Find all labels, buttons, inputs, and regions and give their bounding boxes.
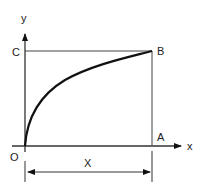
label-o: O (10, 151, 19, 163)
dimension-label-x: X (84, 157, 92, 169)
label-c: C (12, 46, 20, 58)
curve (25, 51, 152, 146)
curve-area-diagram: y x C B A O X (0, 0, 206, 195)
y-axis-label: y (21, 12, 27, 24)
x-axis-label: x (187, 140, 193, 152)
label-a: A (157, 131, 165, 143)
label-b: B (157, 45, 164, 57)
